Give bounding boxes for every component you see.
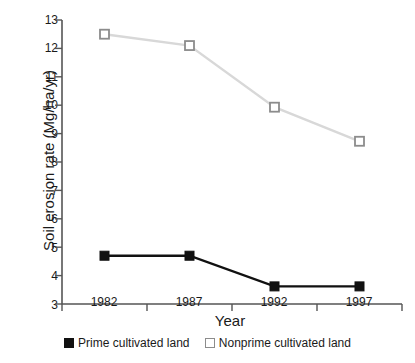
chart-legend: Prime cultivated land Nonprime cultivate… (0, 336, 415, 350)
legend-entry-nonprime: Nonprime cultivated land (205, 336, 351, 350)
open-square-icon (205, 338, 215, 348)
series-line-prime (105, 256, 360, 287)
data-point (270, 282, 279, 291)
legend-label-prime: Prime cultivated land (78, 336, 189, 350)
legend-label-nonprime: Nonprime cultivated land (219, 336, 351, 350)
x-tick-label-1982: 1982 (74, 296, 134, 308)
data-point (355, 282, 364, 291)
x-tick-label-1992: 1992 (244, 296, 304, 308)
legend-entry-prime: Prime cultivated land (64, 336, 189, 350)
data-point (185, 251, 194, 260)
x-axis-label: Year (60, 312, 400, 329)
data-point (270, 103, 279, 112)
data-point (355, 137, 364, 146)
chart-figure: Soil erosion rate (Mg/ha/yr) 13 12 11 10… (0, 0, 415, 363)
x-tick-label-1987: 1987 (159, 296, 219, 308)
data-point (185, 41, 194, 50)
data-point (100, 30, 109, 39)
filled-square-icon (64, 338, 74, 348)
series-line-nonprime (105, 34, 360, 141)
data-point (100, 251, 109, 260)
x-tick-label-1997: 1997 (329, 296, 389, 308)
